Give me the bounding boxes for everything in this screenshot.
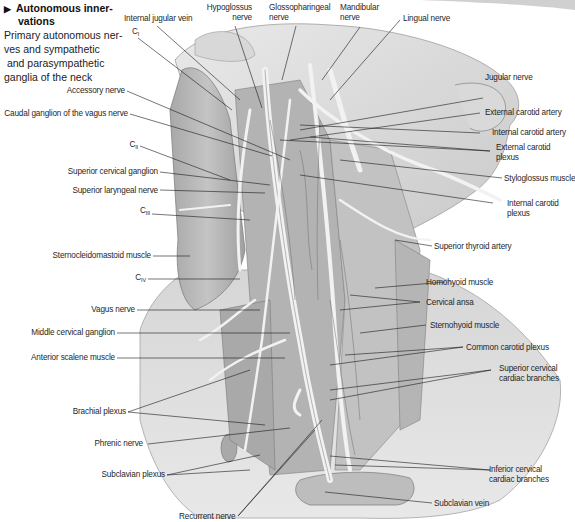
label-c2: CII (0, 140, 138, 153)
label-vagus-nerve: Vagus nerve (0, 305, 135, 315)
label-sternohyoid-muscle: Sternohyoid muscle (430, 321, 499, 331)
label-internal-jugular-vein: Internal jugular vein (124, 14, 192, 24)
label-superior-thyroid-artery: Superior thyroid artery (434, 242, 512, 252)
label-superior-laryngeal-nerve: Superior laryngeal nerve (0, 186, 158, 196)
anatomy-figure: ▶Autonomous inner- vations Primary auton… (0, 0, 575, 522)
label-phrenic-nerve: Phrenic nerve (0, 439, 143, 449)
label-recurrent-nerve: Recurrent nerve (179, 512, 235, 522)
label-common-carotid-plexus: Common carotid plexus (466, 343, 549, 353)
label-brachial-plexus: Brachial plexus (0, 407, 126, 417)
label-middle-cervical-ganglion: Middle cervical ganglion (0, 328, 115, 338)
label-lingual-nerve: Lingual nerve (403, 14, 450, 24)
label-external-carotid-artery: External carotid artery (485, 108, 562, 118)
label-cervical-ansa: Cervical ansa (426, 298, 474, 308)
label-styloglossus-muscle: Styloglossus muscle (504, 174, 575, 184)
label-c3: CIII (0, 206, 150, 219)
label-c1: CI (132, 27, 139, 40)
label-glossopharyngeal-nerve: Glossopharingealnerve (269, 3, 330, 22)
label-subclavian-vein: Subclavian vein (434, 499, 489, 509)
label-internal-carotid-artery: Internal carotid artery (492, 128, 566, 138)
label-homohyoid-muscle: Homohyoid muscle (426, 278, 493, 288)
label-caudal-ganglion-vagus-nerve: Caudal ganglion of the vagus nerve (0, 109, 128, 119)
label-external-carotid-plexus: External carotidplexus (496, 143, 551, 162)
label-anterior-scalene-muscle: Anterior scalene muscle (0, 353, 115, 363)
label-inferior-cervical-cardiac-branches: Inferior cervicalcardiac branches (489, 465, 549, 484)
label-sternocleidomastoid-muscle: Sternocleidomastoid muscle (0, 251, 151, 261)
label-subclavian-plexus: Subclavian plexus (0, 470, 165, 480)
label-c4: CIV (0, 273, 146, 286)
pointer-arrow-icon: ▶ (4, 3, 16, 15)
label-superior-cervical-cardiac-branches: Superior cervicalcardiac branches (499, 364, 559, 383)
label-internal-carotid-plexus: Internal carotidplexus (507, 199, 559, 218)
label-accessory-nerve: Accessory nerve (0, 86, 125, 96)
label-hypoglossus-nerve: Hypoglossusnerve (200, 3, 252, 22)
label-mandibular-nerve: Mandibularnerve (340, 3, 379, 22)
label-jugular-nerve: Jugular nerve (485, 73, 533, 83)
label-superior-cervical-ganglion: Superior cervical ganglion (0, 167, 158, 177)
